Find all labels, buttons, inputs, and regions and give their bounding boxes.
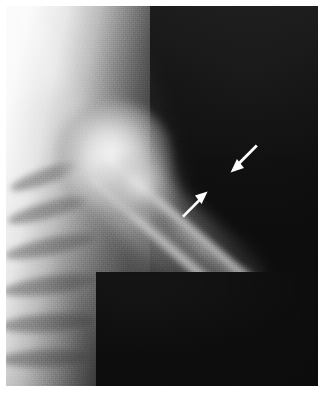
collimation-mask-sheen bbox=[96, 272, 318, 386]
arrow-lower-left bbox=[176, 189, 214, 219]
radiograph-image bbox=[6, 6, 318, 386]
collimation-mask bbox=[96, 272, 318, 386]
arrow-upper-right bbox=[228, 142, 260, 176]
radiograph-figure bbox=[0, 0, 325, 393]
